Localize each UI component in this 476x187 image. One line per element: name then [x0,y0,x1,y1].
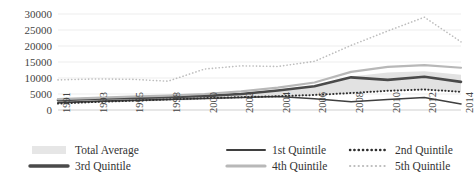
x-tick-label: 2000 [209,92,220,113]
x-axis-labels: 1991199319951998200020022004200620082010… [0,0,473,140]
legend-item-label: 4th Quintile [272,160,327,172]
legend-item-total-average[interactable]: Total Average [28,144,139,156]
chart-legend: Total Average1st Quintile2nd Quintile3rd… [0,141,473,187]
x-tick-label: 2008 [355,92,366,113]
band-swatch-icon [28,144,70,156]
x-tick-label: 1991 [62,92,73,113]
legend-item-5th-quintile[interactable]: 5th Quintile [348,160,450,172]
thick-dark-line-icon [28,160,70,172]
legend-item-label: 5th Quintile [395,160,450,172]
legend-item-2nd-quintile[interactable]: 2nd Quintile [348,144,453,156]
x-tick-label: 2006 [318,92,329,113]
plot-area: 050001000015000200002500030000 199119931… [0,0,473,140]
legend-item-label: 1st Quintile [272,144,326,156]
legend-item-4th-quintile[interactable]: 4th Quintile [225,160,327,172]
legend-item-label: Total Average [75,144,139,156]
legend-item-3rd-quintile[interactable]: 3rd Quintile [28,160,131,172]
x-tick-label: 1998 [172,92,183,113]
legend-item-1st-quintile[interactable]: 1st Quintile [225,144,326,156]
legend-item-label: 2nd Quintile [395,144,453,156]
x-tick-label: 2014 [465,92,476,113]
dotted-dark-line-icon [348,144,390,156]
x-tick-label: 2012 [428,92,439,113]
x-tick-label: 2004 [282,92,293,113]
solid-light-line-icon [225,160,267,172]
legend-item-label: 3rd Quintile [75,160,131,172]
x-tick-label: 2002 [245,92,256,113]
x-tick-label: 1995 [135,92,146,113]
x-tick-label: 2010 [392,92,403,113]
x-tick-label: 1993 [99,92,110,113]
solid-dark-line-icon [225,144,267,156]
dotted-light-line-icon [348,160,390,172]
